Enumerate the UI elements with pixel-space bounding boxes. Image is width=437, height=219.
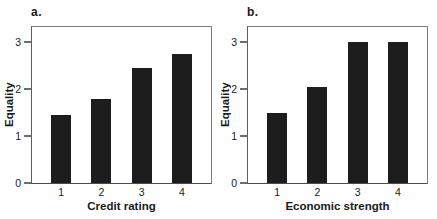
bar-category-3 <box>132 68 152 183</box>
panel-b-bars <box>248 27 427 183</box>
x-tick-label: 1 <box>51 186 71 198</box>
y-tick-mark <box>240 135 247 137</box>
panel-a-x-tick-labels: 1234 <box>32 186 211 198</box>
y-tick-mark <box>240 182 247 184</box>
y-tick-label: 1 <box>231 131 237 141</box>
bar-category-2 <box>307 87 327 183</box>
y-tick-mark <box>24 135 31 137</box>
bar-category-3 <box>348 42 368 183</box>
x-tick-label: 2 <box>307 186 327 198</box>
y-tick-2: 2 <box>15 84 31 94</box>
y-tick-3: 3 <box>15 37 31 47</box>
x-tick-label: 4 <box>388 186 408 198</box>
panel-b: b. Equality 0123 1234 Economic strength <box>216 0 434 219</box>
bar-category-4 <box>172 54 192 183</box>
y-tick-label: 2 <box>231 84 237 94</box>
panel-a-label: a. <box>31 5 42 19</box>
bar-category-4 <box>388 42 408 183</box>
y-tick-mark <box>24 88 31 90</box>
bar-category-1 <box>51 115 71 183</box>
bar-category-2 <box>91 99 111 183</box>
y-tick-label: 0 <box>15 178 21 188</box>
y-tick-mark <box>24 182 31 184</box>
panel-b-x-axis-label: Economic strength <box>247 200 428 212</box>
y-tick-0: 0 <box>15 178 31 188</box>
y-tick-1: 1 <box>15 131 31 141</box>
two-panel-bar-figure: a. Equality 0123 1234 Credit rating b. E… <box>0 0 437 219</box>
y-tick-mark <box>24 41 31 43</box>
y-tick-2: 2 <box>231 84 247 94</box>
panel-a-y-axis-label: Equality <box>3 26 18 184</box>
y-tick-label: 1 <box>15 131 21 141</box>
panel-a-plot-area: 0123 1234 <box>31 26 212 184</box>
y-tick-label: 0 <box>231 178 237 188</box>
y-tick-3: 3 <box>231 37 247 47</box>
y-tick-label: 3 <box>231 37 237 47</box>
x-tick-label: 3 <box>132 186 152 198</box>
y-tick-1: 1 <box>231 131 247 141</box>
x-tick-label: 1 <box>267 186 287 198</box>
x-tick-label: 3 <box>348 186 368 198</box>
y-tick-label: 3 <box>15 37 21 47</box>
panel-a: a. Equality 0123 1234 Credit rating <box>0 0 218 219</box>
y-tick-0: 0 <box>231 178 247 188</box>
x-tick-label: 4 <box>172 186 192 198</box>
panel-b-y-axis-label: Equality <box>219 26 234 184</box>
panel-b-x-tick-labels: 1234 <box>248 186 427 198</box>
panel-a-x-axis-label: Credit rating <box>31 200 212 212</box>
y-tick-mark <box>240 41 247 43</box>
panel-a-bars <box>32 27 211 183</box>
panel-b-label: b. <box>247 5 259 19</box>
bar-category-1 <box>267 113 287 183</box>
panel-b-plot-area: 0123 1234 <box>247 26 428 184</box>
y-tick-label: 2 <box>15 84 21 94</box>
y-tick-mark <box>240 88 247 90</box>
x-tick-label: 2 <box>91 186 111 198</box>
